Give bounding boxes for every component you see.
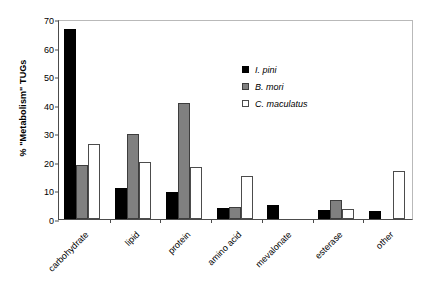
legend-label: I. pini — [255, 65, 277, 75]
legend-swatch-icon — [242, 100, 249, 107]
x-tick-label: carbohydrate — [0, 229, 91, 294]
legend-swatch-icon — [242, 83, 249, 90]
x-tick-mark — [363, 219, 364, 223]
x-tick-label: lipid — [0, 229, 142, 294]
legend: I. piniB. moriC. maculatus — [242, 62, 308, 113]
y-tick-mark — [55, 221, 59, 222]
legend-label: B. mori — [255, 82, 284, 92]
legend-swatch-icon — [242, 66, 249, 73]
x-tick-label: mevalonate — [145, 229, 293, 294]
x-tick-label: other — [247, 229, 395, 294]
x-tick-mark — [313, 219, 314, 223]
y-axis-title: % "Metabolism" TUGs — [18, 38, 28, 178]
x-tick-label: amino acid — [95, 229, 243, 294]
legend-item: B. mori — [242, 79, 308, 94]
metabolism-tugs-bar-chart: % "Metabolism" TUGs 010203040506070 carb… — [0, 0, 437, 294]
x-tick-mark — [262, 219, 263, 223]
legend-item: I. pini — [242, 62, 308, 77]
legend-item: C. maculatus — [242, 96, 308, 111]
x-tick-mark — [211, 219, 212, 223]
x-axis-ticks — [59, 21, 412, 219]
x-tick-mark — [160, 219, 161, 223]
legend-label: C. maculatus — [255, 99, 308, 109]
plot-area: 010203040506070 — [58, 20, 413, 220]
x-tick-mark — [110, 219, 111, 223]
x-tick-label: protein — [44, 229, 192, 294]
